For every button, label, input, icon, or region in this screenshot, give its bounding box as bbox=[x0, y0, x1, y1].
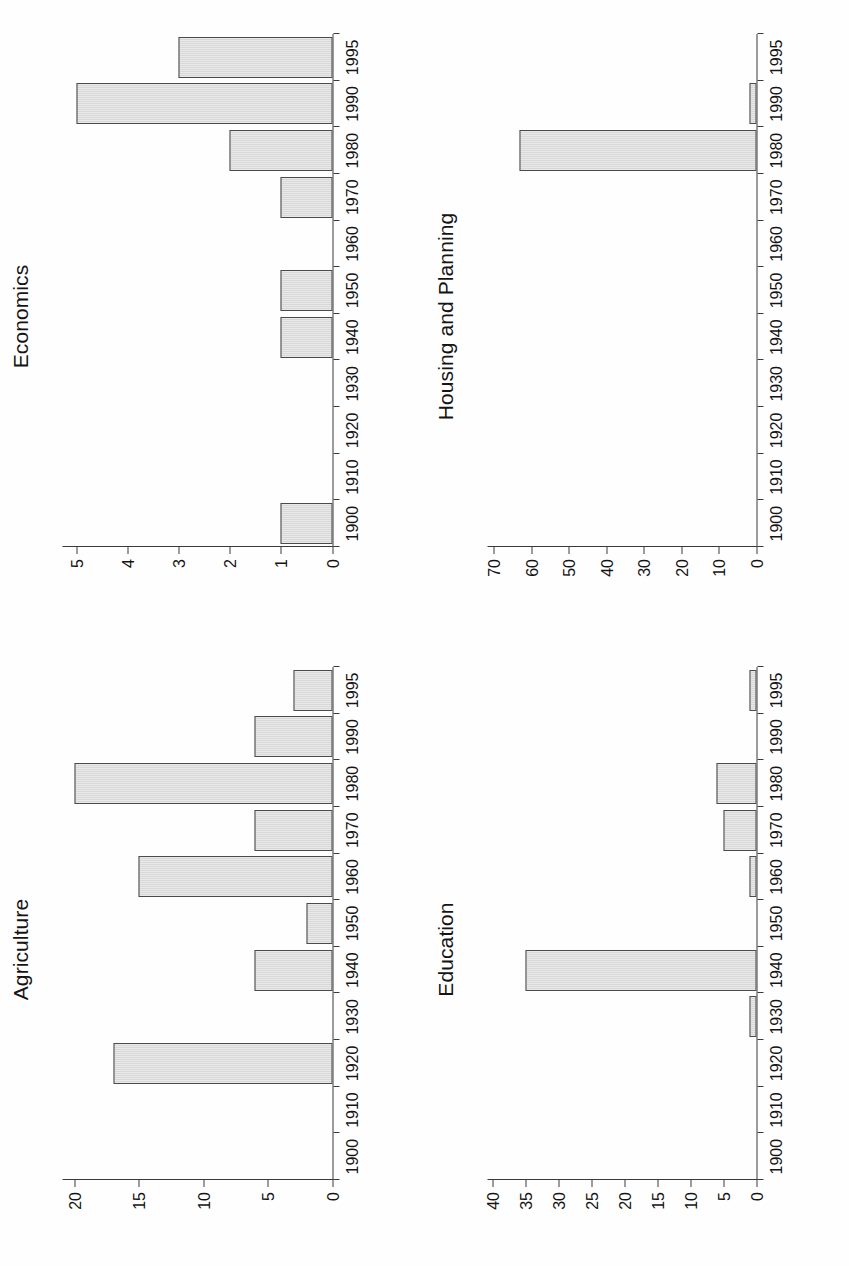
bar bbox=[280, 317, 331, 358]
x-tick-label: 1995 bbox=[767, 673, 785, 709]
y-tick-label: 35 bbox=[517, 1192, 535, 1210]
y-tick-label: 20 bbox=[66, 1192, 84, 1210]
x-tick bbox=[333, 899, 339, 900]
x-tick bbox=[757, 666, 763, 667]
x-tick-label: 1995 bbox=[767, 40, 785, 76]
x-tick-label: 1900 bbox=[343, 1139, 361, 1175]
y-tick-label: 30 bbox=[635, 559, 653, 577]
y-tick-label: 25 bbox=[583, 1192, 601, 1210]
y-tick bbox=[568, 547, 569, 554]
x-tick-label: 1970 bbox=[767, 812, 785, 848]
y-tick bbox=[493, 547, 494, 554]
bar bbox=[716, 763, 756, 804]
x-tick bbox=[333, 80, 339, 81]
x-tick bbox=[757, 992, 763, 993]
bar bbox=[749, 856, 756, 897]
y-tick bbox=[203, 1180, 204, 1187]
x-tick-label: 1910 bbox=[343, 459, 361, 495]
x-tick-label: 1995 bbox=[343, 40, 361, 76]
y-axis-education bbox=[487, 1179, 758, 1180]
bar bbox=[113, 1043, 332, 1084]
x-tick bbox=[333, 946, 339, 947]
panel-education: Education 051015202530354019001910192019… bbox=[425, 633, 849, 1266]
y-tick bbox=[756, 547, 757, 554]
y-axis-housing-and-planning bbox=[487, 546, 758, 547]
panel-housing-and-planning: Housing and Planning 0102030405060701900… bbox=[425, 0, 849, 633]
plot-area-economics: 0123451900191019201930194019501960197019… bbox=[62, 34, 333, 547]
x-tick-label: 1940 bbox=[343, 319, 361, 355]
x-tick bbox=[333, 806, 339, 807]
y-tick bbox=[606, 547, 607, 554]
x-tick-label: 1920 bbox=[767, 1046, 785, 1082]
x-tick-label: 1960 bbox=[767, 859, 785, 895]
x-tick bbox=[757, 359, 763, 360]
x-tick bbox=[757, 406, 763, 407]
bar bbox=[280, 177, 331, 218]
y-tick-label: 2 bbox=[221, 559, 239, 568]
y-tick bbox=[280, 547, 281, 554]
x-tick-label: 1930 bbox=[767, 366, 785, 402]
x-tick-label: 1970 bbox=[343, 812, 361, 848]
bar bbox=[749, 996, 756, 1037]
panel-title-agriculture: Agriculture bbox=[8, 633, 32, 1266]
y-tick bbox=[756, 1180, 757, 1187]
y-tick bbox=[558, 1180, 559, 1187]
x-tick bbox=[333, 1132, 339, 1133]
x-tick-label: 1940 bbox=[343, 952, 361, 988]
x-tick bbox=[333, 453, 339, 454]
bar bbox=[293, 670, 332, 711]
x-tick bbox=[757, 546, 763, 547]
x-tick-label: 1990 bbox=[767, 719, 785, 755]
bar bbox=[749, 670, 756, 711]
y-tick bbox=[178, 547, 179, 554]
y-tick bbox=[718, 547, 719, 554]
y-tick-label: 5 bbox=[715, 1192, 733, 1201]
bar bbox=[254, 716, 331, 757]
x-tick bbox=[757, 220, 763, 221]
y-tick bbox=[76, 547, 77, 554]
x-tick-label: 1970 bbox=[767, 179, 785, 215]
x-tick bbox=[333, 666, 339, 667]
x-tick bbox=[333, 406, 339, 407]
bar bbox=[254, 950, 331, 991]
y-tick-label: 70 bbox=[485, 559, 503, 577]
y-tick-label: 50 bbox=[560, 559, 578, 577]
panel-agriculture: Agriculture 0510152019001910192019301940… bbox=[0, 633, 425, 1266]
x-tick bbox=[333, 546, 339, 547]
x-tick bbox=[757, 313, 763, 314]
y-tick-label: 10 bbox=[682, 1192, 700, 1210]
y-tick bbox=[138, 1180, 139, 1187]
x-tick bbox=[333, 266, 339, 267]
x-tick bbox=[757, 1086, 763, 1087]
y-tick-label: 20 bbox=[673, 559, 691, 577]
x-tick-label: 1980 bbox=[767, 133, 785, 169]
y-tick-label: 15 bbox=[130, 1192, 148, 1210]
y-tick-label: 0 bbox=[748, 1192, 766, 1201]
x-tick-label: 1900 bbox=[343, 506, 361, 542]
bar bbox=[280, 503, 331, 544]
x-tick bbox=[757, 1179, 763, 1180]
x-tick-label: 1910 bbox=[343, 1092, 361, 1128]
y-axis-agriculture bbox=[62, 1179, 333, 1180]
x-tick bbox=[333, 713, 339, 714]
x-tick bbox=[333, 759, 339, 760]
x-tick bbox=[757, 713, 763, 714]
x-tick-label: 1930 bbox=[767, 999, 785, 1035]
y-tick bbox=[690, 1180, 691, 1187]
x-tick-label: 1950 bbox=[767, 906, 785, 942]
x-tick-label: 1950 bbox=[767, 273, 785, 309]
bar bbox=[723, 810, 756, 851]
x-tick-label: 1950 bbox=[343, 906, 361, 942]
panel-title-housing-and-planning: Housing and Planning bbox=[433, 0, 457, 633]
bar bbox=[519, 130, 756, 171]
y-tick bbox=[643, 547, 644, 554]
x-tick bbox=[757, 899, 763, 900]
x-tick bbox=[757, 1132, 763, 1133]
y-tick bbox=[681, 547, 682, 554]
y-tick-label: 5 bbox=[259, 1192, 277, 1201]
panel-economics: Economics 012345190019101920193019401950… bbox=[0, 0, 425, 633]
x-tick bbox=[333, 313, 339, 314]
y-tick-label: 40 bbox=[484, 1192, 502, 1210]
x-tick-label: 1900 bbox=[767, 1139, 785, 1175]
x-tick bbox=[333, 499, 339, 500]
